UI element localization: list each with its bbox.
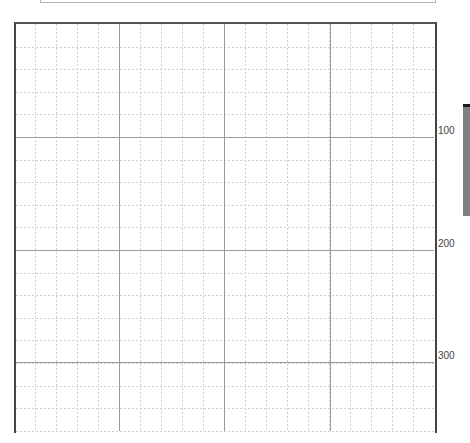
- y-axis-label-100: 100: [438, 125, 455, 137]
- grid-lines: [0, 0, 470, 443]
- y-axis-label-300: 300: [438, 350, 455, 362]
- y-axis-label-200: 200: [438, 238, 455, 250]
- vertical-scrollbar-thumb[interactable]: [463, 104, 470, 216]
